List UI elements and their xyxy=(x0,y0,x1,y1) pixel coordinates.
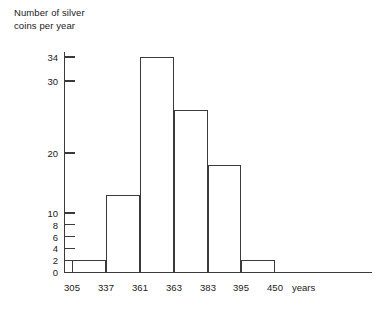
histogram-bar xyxy=(208,165,241,272)
histogram-bar xyxy=(72,260,106,272)
page-footer-artifact xyxy=(18,301,318,310)
y-axis-tick xyxy=(65,236,75,237)
x-axis-line xyxy=(64,272,372,273)
chart-title: Number of silver coins per year xyxy=(14,6,85,32)
y-axis-tick xyxy=(65,224,75,225)
y-axis-tick-label: 34 xyxy=(28,52,58,63)
y-axis-tick-label: 30 xyxy=(28,76,58,87)
y-axis-tick xyxy=(65,212,75,213)
histogram-bar xyxy=(140,57,174,272)
x-axis-tick-label: 305 xyxy=(64,282,80,293)
x-axis-tick-label: 395 xyxy=(233,282,249,293)
y-axis-tick-label: 4 xyxy=(28,243,58,254)
x-axis-tick-label: 383 xyxy=(200,282,216,293)
y-axis-line xyxy=(64,52,65,273)
histogram-bar xyxy=(106,195,140,272)
histogram-bar xyxy=(241,260,275,272)
y-axis-tick xyxy=(65,152,75,153)
x-axis-tick-label: 450 xyxy=(267,282,283,293)
y-axis-tick-label: 0 xyxy=(28,267,58,278)
x-axis-tick-label: 337 xyxy=(98,282,114,293)
y-axis-tick xyxy=(65,248,75,249)
y-axis-tick-label: 2 xyxy=(28,255,58,266)
y-axis-tick xyxy=(65,80,75,81)
histogram-bar xyxy=(174,110,208,272)
histogram-chart: Number of silver coins per year 02468102… xyxy=(0,0,391,315)
y-axis-tick-label: 6 xyxy=(28,231,58,242)
y-axis-tick-label: 20 xyxy=(28,148,58,159)
y-axis-tick-label: 10 xyxy=(28,208,58,219)
y-axis-tick-label: 8 xyxy=(28,219,58,230)
y-axis-tick xyxy=(65,56,75,57)
x-axis-tick-label: 361 xyxy=(132,282,148,293)
x-axis-tick-label: 363 xyxy=(166,282,182,293)
x-axis-unit-label: years xyxy=(292,282,315,293)
